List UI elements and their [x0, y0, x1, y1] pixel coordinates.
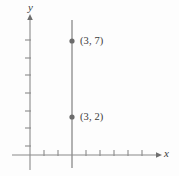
y-axis-arrowhead [27, 14, 33, 20]
y-axis-label: y [28, 2, 33, 13]
data-point [69, 38, 74, 43]
x-axis-arrowhead [156, 152, 162, 158]
coordinate-plane-figure: y x (3, 7) (3, 2) [0, 0, 179, 176]
data-point [69, 114, 74, 119]
point-label-3-2: (3, 2) [80, 112, 103, 123]
graph-canvas [0, 0, 179, 176]
point-label-3-7: (3, 7) [80, 36, 103, 47]
x-axis-label: x [164, 148, 169, 159]
